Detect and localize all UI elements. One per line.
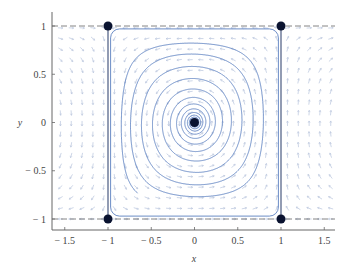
equilibrium-point [104, 215, 113, 224]
equilibrium-point [190, 118, 199, 127]
x-tick-label: 0 [192, 235, 197, 246]
x-tick-label: − 1.5 [54, 235, 75, 246]
equilibrium-point [104, 22, 113, 31]
equilibrium-point [277, 215, 286, 224]
equilibrium-point [277, 22, 286, 31]
y-tick-label: 1 [41, 21, 46, 32]
y-tick-label: 0 [41, 117, 46, 128]
x-tick-label: − 1 [101, 235, 114, 246]
y-tick-label: − 0.5 [25, 165, 46, 176]
y-tick-label: 0.5 [34, 69, 47, 80]
y-axis-label: y [17, 117, 23, 128]
x-tick-label: 1 [279, 235, 284, 246]
phase-portrait-chart: − 1.5− 1− 0.500.511.5− 1− 0.500.51 x y [0, 0, 357, 269]
x-tick-label: 1.5 [318, 235, 331, 246]
x-tick-label: 0.5 [232, 235, 245, 246]
x-tick-label: − 0.5 [141, 235, 162, 246]
x-axis-label: x [191, 253, 197, 264]
y-tick-label: − 1 [33, 214, 46, 225]
